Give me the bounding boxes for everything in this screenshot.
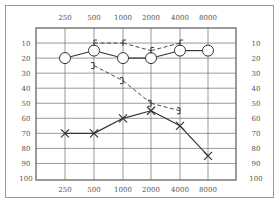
y-tick-label: 20 <box>252 55 261 63</box>
circle-marker-icon <box>118 53 129 64</box>
x-tick-label: 2000 <box>142 14 160 22</box>
audiogram-chart: 2505001000200040008000 25050010002000400… <box>0 0 280 210</box>
circle-marker-icon <box>89 45 100 56</box>
y-tick-label: 30 <box>252 70 261 78</box>
y-tick-label: 60 <box>252 115 261 123</box>
y-tick-label: 100 <box>249 175 262 183</box>
x-tick-label: 250 <box>58 14 71 22</box>
series-segment <box>156 52 174 57</box>
y-tick-label: 20 <box>22 55 31 63</box>
x-tick-label: 250 <box>58 186 71 194</box>
y-tick-label: 80 <box>22 145 31 153</box>
x-axis-bottom-labels: 2505001000200040008000 <box>58 186 217 194</box>
y-tick-label: 10 <box>22 40 31 48</box>
circle-marker-icon <box>175 45 186 56</box>
y-tick-label: 80 <box>252 145 261 153</box>
right-bracket-marker-icon <box>91 63 94 69</box>
series-segment <box>99 52 117 57</box>
y-tick-label: 40 <box>22 85 31 93</box>
circle-marker-icon <box>60 53 71 64</box>
y-tick-label: 50 <box>22 100 31 108</box>
x-tick-label: 4000 <box>171 14 189 22</box>
y-tick-label: 100 <box>19 175 32 183</box>
y-tick-label: 70 <box>22 130 31 138</box>
y-tick-label: 90 <box>22 160 31 168</box>
x-tick-label: 8000 <box>199 14 217 22</box>
series-segment <box>70 52 88 57</box>
y-tick-label: 40 <box>252 85 261 93</box>
x-tick-label: 2000 <box>142 186 160 194</box>
y-axis-right-labels: 102030405060708090100 <box>249 40 262 183</box>
y-tick-label: 70 <box>252 130 261 138</box>
circle-marker-icon <box>146 53 157 64</box>
series-segment <box>123 81 151 104</box>
right-bracket-marker-icon <box>120 78 123 84</box>
x-tick-label: 4000 <box>171 186 189 194</box>
y-tick-label: 10 <box>252 40 261 48</box>
x-tick-label: 8000 <box>199 186 217 194</box>
series-left-bracket <box>94 40 183 54</box>
series-segment <box>151 103 180 111</box>
x-tick-label: 1000 <box>114 14 132 22</box>
y-tick-label: 60 <box>22 115 31 123</box>
y-tick-label: 30 <box>22 70 31 78</box>
circle-marker-icon <box>203 45 214 56</box>
y-tick-label: 50 <box>252 100 261 108</box>
x-tick-label: 1000 <box>114 186 132 194</box>
y-tick-label: 90 <box>252 160 261 168</box>
series-segment <box>94 118 123 133</box>
series-segment <box>123 43 151 51</box>
x-axis-top-labels: 2505001000200040008000 <box>58 14 217 22</box>
x-tick-label: 500 <box>87 186 100 194</box>
y-axis-left-labels: 102030405060708090100 <box>19 40 32 183</box>
series-segment <box>180 126 208 156</box>
x-tick-label: 500 <box>87 14 100 22</box>
series-circle <box>60 45 214 64</box>
